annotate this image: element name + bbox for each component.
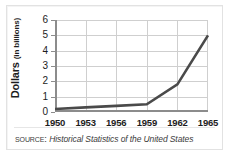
y-tick-0 [51, 112, 55, 113]
y-tick-label-2: 2 [42, 76, 48, 86]
source-divider [14, 127, 215, 128]
source-title: Historical Statistics of the United Stat… [49, 134, 193, 144]
y-axis-title-unit: (in billions) [12, 18, 21, 59]
y-axis-title: Dollars (in billions) [9, 8, 25, 108]
y-tick-label-0: 0 [42, 107, 48, 117]
y-tick-label-1: 1 [42, 92, 48, 102]
source-note: Source: Historical Statistics of the Uni… [15, 133, 215, 144]
y-axis-title-main: Dollars [9, 62, 21, 98]
chart-figure: Dollars (in billions) 6 5 4 3 2 1 0 [0, 0, 229, 156]
plot-area: 6 5 4 3 2 1 0 1950 1953 1956 1959 1962 1… [55, 20, 208, 112]
y-tick-label-4: 4 [42, 46, 48, 56]
source-keyword: Source: [15, 133, 47, 144]
series-line-dollars [55, 20, 208, 112]
y-tick-label-6: 6 [42, 15, 48, 25]
y-tick-label-5: 5 [42, 30, 48, 40]
y-tick-label-3: 3 [42, 61, 48, 71]
